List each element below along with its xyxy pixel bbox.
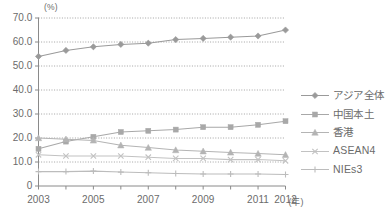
marker-diamond (282, 27, 288, 33)
legend-label: 中国本土 (333, 106, 374, 121)
series-point-4-6 (200, 171, 206, 177)
marker-diamond (145, 40, 151, 46)
series-point-1-7 (228, 125, 233, 130)
marker-plus (145, 170, 151, 176)
marker-plus (228, 171, 234, 177)
marker-square (256, 122, 261, 127)
marker-plus (255, 171, 261, 177)
legend-label: アジア全体 (333, 87, 384, 102)
marker-square (201, 125, 206, 130)
series-line-1 (39, 121, 286, 149)
legend-item-2[interactable]: 香港 (300, 125, 384, 138)
marker-diamond (35, 53, 41, 59)
series-point-1-8 (256, 122, 261, 127)
marker-square (118, 130, 123, 135)
series-point-4-3 (118, 169, 124, 175)
y-axis-tick-label: 0 (3, 180, 33, 191)
legend-marker (313, 112, 318, 117)
series-point-0-7 (228, 34, 234, 40)
x-axis-tick-label: 2003 (21, 194, 57, 205)
series-point-4-8 (255, 171, 261, 177)
marker-square (146, 128, 151, 133)
legend-item-3[interactable]: ASEAN4 (300, 144, 384, 157)
legend-label: 香港 (333, 124, 353, 139)
y-axis-tick-label: 60.0 (3, 36, 33, 47)
series-point-1-5 (173, 127, 178, 132)
x-axis-unit-label: (年) (289, 195, 304, 208)
legend-swatch-icon (300, 107, 330, 120)
marker-diamond (90, 44, 96, 50)
series-point-1-3 (118, 130, 123, 135)
marker-diamond (255, 33, 261, 39)
legend-item-1[interactable]: 中国本土 (300, 107, 384, 120)
series-point-4-0 (36, 169, 42, 175)
legend-swatch-icon (300, 144, 330, 157)
series-line-2 (39, 138, 286, 155)
marker-diamond (173, 37, 179, 43)
legend-label: NIEs3 (333, 163, 363, 175)
series-point-1-6 (201, 125, 206, 130)
marker-plus (312, 167, 318, 173)
y-axis-tick-label: 40.0 (3, 84, 33, 95)
marker-plus (90, 168, 96, 174)
series-point-0-2 (90, 44, 96, 50)
series-point-0-4 (145, 40, 151, 46)
legend-swatch-icon (300, 162, 330, 175)
series-line-3 (39, 155, 286, 161)
series-1 (36, 119, 288, 152)
y-axis-tick-label: 50.0 (3, 60, 33, 71)
series-4 (36, 168, 289, 177)
marker-square (228, 125, 233, 130)
legend-marker (312, 167, 318, 173)
marker-square (36, 146, 41, 151)
series-point-0-1 (63, 47, 69, 53)
marker-plus (63, 169, 69, 175)
marker-plus (200, 171, 206, 177)
marker-diamond (200, 35, 206, 41)
series-point-4-1 (63, 169, 69, 175)
series-point-4-9 (283, 171, 289, 177)
series-point-0-3 (118, 41, 124, 47)
marker-plus (118, 169, 124, 175)
series-point-0-5 (173, 37, 179, 43)
legend-swatch-icon (300, 88, 330, 101)
series-point-0-9 (282, 27, 288, 33)
marker-plus (36, 169, 42, 175)
marker-plus (283, 171, 289, 177)
x-axis-tick-label: 2009 (185, 194, 221, 205)
marker-plus (173, 171, 179, 177)
series-line-0 (39, 30, 286, 56)
series-point-1-4 (146, 128, 151, 133)
series-point-1-9 (283, 119, 288, 124)
series-point-0-8 (255, 33, 261, 39)
legend-item-4[interactable]: NIEs3 (300, 162, 384, 175)
y-axis-tick-label: 30.0 (3, 108, 33, 119)
line-chart: (%) アジア全体中国本土香港ASEAN4NIEs3 010.020.030.0… (0, 0, 392, 218)
marker-diamond (312, 92, 318, 98)
y-axis-tick-label: 20.0 (3, 132, 33, 143)
x-axis-tick-label: 2005 (75, 194, 111, 205)
marker-diamond (63, 47, 69, 53)
series-3 (36, 152, 288, 163)
series-point-4-7 (228, 171, 234, 177)
x-axis-tick-label: 2007 (130, 194, 166, 205)
marker-square (313, 112, 318, 117)
series-point-0-6 (200, 35, 206, 41)
series-point-4-2 (90, 168, 96, 174)
marker-diamond (118, 41, 124, 47)
marker-diamond (228, 34, 234, 40)
y-axis-tick-label: 70.0 (3, 12, 33, 23)
marker-square (283, 119, 288, 124)
series-2 (35, 135, 288, 158)
marker-square (173, 127, 178, 132)
legend-label: ASEAN4 (333, 144, 376, 156)
legend-swatch-icon (300, 125, 330, 138)
series-point-4-4 (145, 170, 151, 176)
series-point-0-0 (35, 53, 41, 59)
chart-legend: アジア全体中国本土香港ASEAN4NIEs3 (300, 88, 384, 175)
legend-item-0[interactable]: アジア全体 (300, 88, 384, 101)
series-point-1-0 (36, 146, 41, 151)
legend-marker (312, 92, 318, 98)
series-line-4 (39, 171, 286, 174)
series-0 (35, 27, 288, 60)
